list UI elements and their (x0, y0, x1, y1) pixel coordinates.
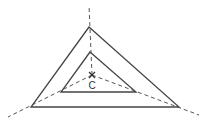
diagram-canvas: C (0, 0, 202, 123)
outer-triangle (31, 27, 179, 107)
ray-right (92, 75, 199, 115)
ray-top (89, 5, 92, 75)
center-label: C (88, 80, 95, 91)
